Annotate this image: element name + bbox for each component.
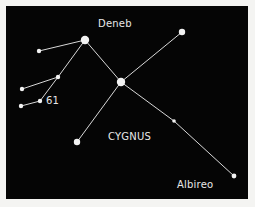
star-upper-left-icon	[37, 49, 41, 53]
line-deneb-sadr	[85, 40, 121, 82]
star-left-lower-icon	[19, 104, 23, 108]
label-albireo: Albireo	[177, 180, 213, 190]
label-deneb: Deneb	[98, 19, 132, 29]
star-left-junction-icon	[56, 75, 60, 79]
line-left-junction-left-middle	[22, 77, 58, 89]
star-lower-left-icon	[74, 139, 80, 145]
line-sadr-upper-right	[121, 32, 182, 82]
star-star-61-icon	[38, 99, 42, 103]
line-sadr-mid-right	[121, 82, 174, 121]
label-cygnus-title: CYGNUS	[108, 132, 151, 142]
star-upper-right-icon	[179, 29, 185, 35]
star-left-middle-icon	[20, 87, 24, 91]
line-star-61-left-lower	[21, 101, 40, 106]
star-mid-right-icon	[172, 119, 176, 123]
constellation-diagram	[0, 0, 255, 207]
line-mid-right-albireo	[174, 121, 234, 176]
star-albireo-icon	[232, 174, 237, 179]
label-star-61: 61	[46, 96, 59, 106]
star-deneb-icon	[81, 36, 89, 44]
star-sadr-icon	[117, 78, 125, 86]
